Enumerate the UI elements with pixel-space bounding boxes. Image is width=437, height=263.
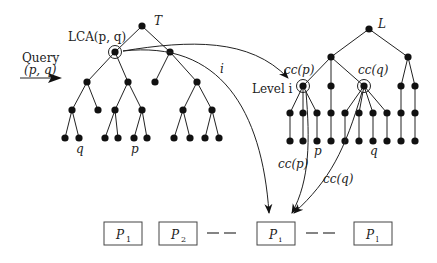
- leaf-p: [130, 134, 137, 141]
- svg-text:i: i: [279, 235, 282, 244]
- query-pq-label: (p, q): [24, 63, 57, 77]
- right-leaf-q-label: q: [370, 144, 378, 158]
- arrow-lca-to-Pi: [123, 50, 269, 213]
- partition-Pi: P i: [257, 222, 295, 245]
- svg-text:P: P: [170, 228, 180, 242]
- svg-text:P: P: [365, 228, 375, 242]
- svg-text:1: 1: [126, 235, 131, 244]
- right-leaf-p-label: p: [314, 144, 322, 158]
- connector-arrows: [123, 44, 362, 213]
- level-i-label: Level i: [252, 82, 293, 96]
- leaf-q-label: q: [76, 142, 84, 156]
- leaf-p-label: p: [131, 142, 139, 156]
- tree-T-label: T: [154, 14, 163, 28]
- partition-P1: P 1: [104, 222, 142, 245]
- tree-node-root-L: [365, 25, 372, 32]
- svg-text:P: P: [268, 228, 278, 242]
- lca-label: LCA(p, q): [68, 30, 126, 44]
- svg-text:2: 2: [181, 235, 186, 244]
- leaf-q: [75, 134, 82, 141]
- cc-p-label: cc(p): [284, 63, 315, 77]
- svg-text:P: P: [115, 228, 125, 242]
- partition-P2: P 2: [159, 222, 197, 245]
- partition-Pl: P l: [354, 222, 392, 245]
- tree-node-lca: [111, 48, 118, 55]
- right-tree-edges: [290, 29, 415, 141]
- cc-q-label: cc(q): [358, 63, 389, 77]
- tree-node-cc-q: [360, 82, 367, 89]
- arrow-ccq-label: cc(q): [323, 172, 354, 186]
- arrow-i-label: i: [220, 62, 224, 76]
- right-tree-nodes: [286, 25, 418, 144]
- tree-L-label: L: [377, 17, 386, 31]
- arrow-ccp-label: cc(p): [278, 157, 309, 171]
- svg-text:l: l: [376, 235, 379, 244]
- diagram-canvas: Query (p, q): [0, 0, 437, 263]
- tree-node-cc-p: [299, 82, 306, 89]
- tree-node-root-T: [138, 22, 145, 29]
- arrow-ccp-to-Pi: [292, 92, 308, 213]
- arrow-lca-to-level-i: [123, 44, 288, 78]
